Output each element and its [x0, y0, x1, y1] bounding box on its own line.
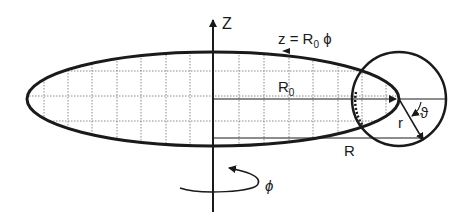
helix-equation: z = R0 ϕ: [278, 30, 332, 50]
phi-rotation-arrow: [180, 168, 259, 192]
r0-label: R0: [278, 78, 295, 98]
R-label: R: [344, 142, 355, 159]
helix-direction-arrow: [282, 48, 290, 54]
phi-label: ϕ: [265, 177, 273, 194]
theta-label: ϑ: [420, 104, 429, 121]
grid: [20, 40, 420, 160]
z-axis-label: Z: [222, 15, 232, 32]
torus-coordinate-diagram: Z z = R0 ϕ R0 R r ϑ ϕ: [0, 0, 472, 224]
r-label: r: [398, 114, 403, 131]
